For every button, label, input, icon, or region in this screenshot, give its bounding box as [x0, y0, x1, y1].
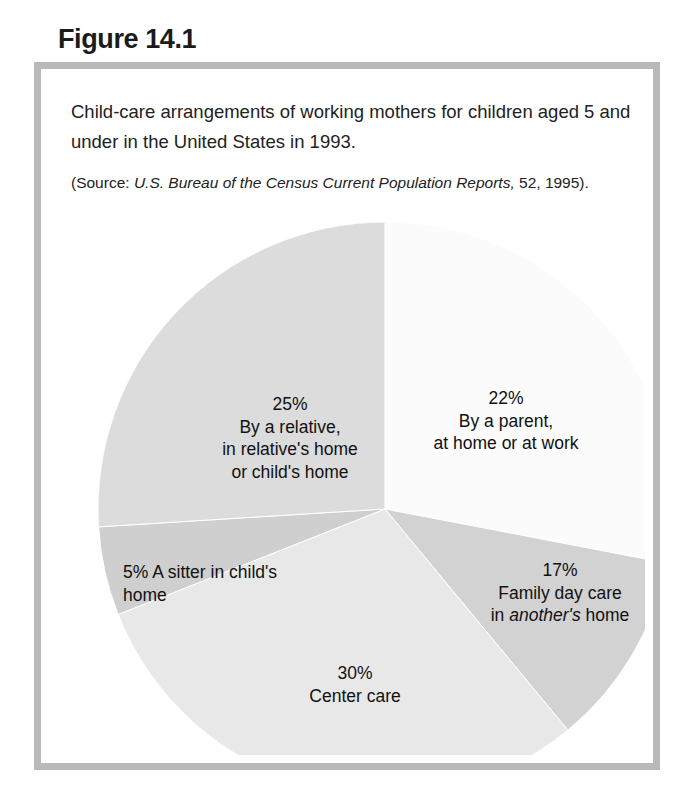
pie-label-parent: 22%By a parent, at home or at work	[401, 387, 611, 455]
pie-label-family-line2-post: home	[581, 605, 630, 625]
figure-content: Child-care arrangements of working mothe…	[49, 77, 645, 755]
pie-label-family-line2-pre: in	[491, 605, 509, 625]
figure-page: Figure 14.1 Child-care arrangements of w…	[0, 0, 694, 808]
pie-label-family-line1: Family day care	[449, 582, 645, 605]
pie-label-relative: 25%By a relative, in relative's home or …	[172, 393, 408, 483]
pie-chart: 22%By a parent, at home or at work 25%By…	[49, 77, 645, 755]
pie-label-sitter-text: 5% A sitter in child's home	[123, 562, 277, 605]
pie-label-family-pct: 17%	[449, 559, 645, 582]
pie-label-family-line2: in another's home	[449, 604, 645, 627]
pie-label-sitter: 5% A sitter in child's home	[123, 561, 333, 606]
pie-label-family: 17%Family day carein another's home	[449, 559, 645, 627]
pie-label-center-pct: 30%	[245, 662, 465, 685]
pie-label-relative-text: By a relative, in relative's home or chi…	[222, 417, 358, 482]
figure-frame: Child-care arrangements of working mothe…	[34, 62, 660, 770]
pie-label-center: 30%Center care	[245, 662, 465, 707]
pie-label-relative-pct: 25%	[172, 393, 408, 416]
figure-title: Figure 14.1	[58, 24, 196, 55]
pie-label-parent-pct: 22%	[401, 387, 611, 410]
pie-label-center-text: Center care	[309, 686, 400, 706]
pie-label-family-line2-emphasis: another's	[509, 605, 580, 625]
pie-label-parent-text: By a parent, at home or at work	[434, 411, 579, 454]
